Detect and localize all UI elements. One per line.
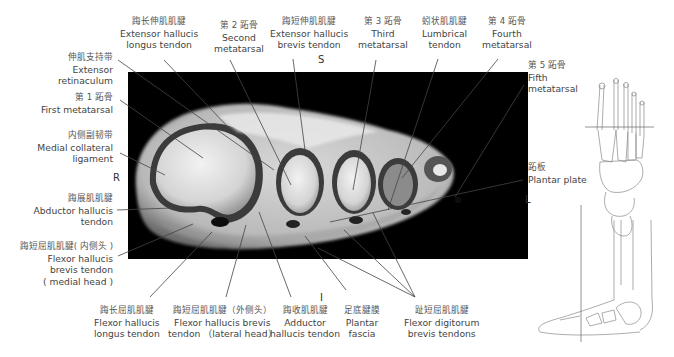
lateral-foot-skeleton-icon — [539, 220, 653, 335]
reference-sketches — [0, 0, 674, 357]
dorsal-foot-skeleton-icon — [597, 79, 644, 237]
